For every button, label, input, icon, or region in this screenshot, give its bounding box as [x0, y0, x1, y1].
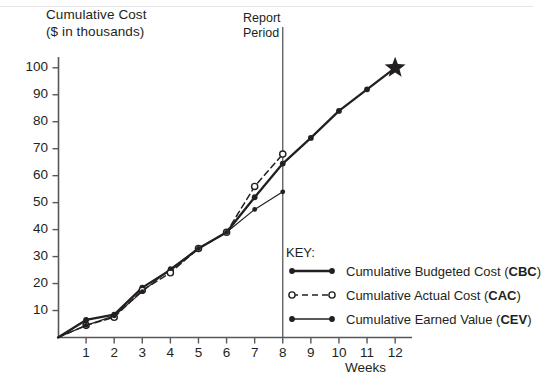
report-period-label: ReportPeriod	[243, 11, 281, 41]
legend-label-cac: Cumulative Actual Cost (CAC)	[346, 288, 521, 303]
data-point-cev	[252, 207, 257, 212]
y-tick-label: 20	[14, 275, 48, 290]
data-point-cac	[252, 183, 258, 189]
data-point-cev	[112, 314, 117, 319]
x-tick-label: 9	[300, 345, 322, 360]
legend-item-cev[interactable]: Cumulative Earned Value (CEV)	[286, 310, 531, 328]
legend-marker	[329, 292, 335, 298]
data-point-cbc	[364, 86, 370, 92]
x-tick-label: 1	[75, 345, 97, 360]
y-axis-title-line2: ($ in thousands)	[46, 24, 144, 39]
x-tick-label: 8	[272, 345, 294, 360]
x-tick-label: 11	[356, 345, 378, 360]
legend-swatch-cac	[286, 288, 338, 302]
legend-item-cbc[interactable]: Cumulative Budgeted Cost (CBC)	[286, 262, 541, 280]
x-tick-label: 7	[244, 345, 266, 360]
y-tick-label: 80	[14, 113, 48, 128]
data-point-cbc	[280, 161, 286, 167]
legend-swatch-cev	[286, 312, 338, 326]
legend-marker	[329, 316, 335, 322]
legend-marker	[289, 316, 295, 322]
data-point-cev	[196, 246, 201, 251]
series-line-cev	[58, 192, 283, 338]
legend-item-cac[interactable]: Cumulative Actual Cost (CAC)	[286, 286, 521, 304]
y-tick-label: 100	[14, 59, 48, 74]
legend-title: KEY:	[286, 245, 315, 260]
series-line-cac	[58, 154, 283, 337]
y-axis-title-line1: Cumulative Cost	[46, 7, 147, 22]
data-point-cev	[140, 289, 145, 294]
x-tick-label: 3	[131, 345, 153, 360]
x-tick-label: 4	[159, 345, 181, 360]
data-point-cev	[280, 189, 285, 194]
legend-marker	[289, 268, 295, 274]
y-tick-label: 10	[14, 302, 48, 317]
x-tick-label: 12	[384, 345, 406, 360]
y-tick-label: 50	[14, 194, 48, 209]
x-tick-label: 6	[216, 345, 238, 360]
data-point-cbc	[252, 194, 258, 200]
x-tick-label: 10	[328, 345, 350, 360]
data-point-cbc	[308, 135, 314, 141]
data-point-cev	[224, 230, 229, 235]
y-tick-label: 90	[14, 86, 48, 101]
y-axis-title: Cumulative Cost($ in thousands)	[46, 7, 147, 40]
legend-marker	[289, 292, 295, 298]
report-period-label-line2: Period	[243, 26, 279, 40]
legend-marker	[329, 268, 335, 274]
x-tick-label: 2	[103, 345, 125, 360]
data-point-cev	[84, 323, 89, 328]
x-tick-label: 5	[187, 345, 209, 360]
data-point-cev	[168, 266, 173, 271]
y-tick-label: 40	[14, 221, 48, 236]
data-point-cbc	[336, 108, 342, 114]
y-tick-label: 70	[14, 140, 48, 155]
x-axis-title: Weeks	[345, 360, 386, 375]
data-point-cac	[280, 151, 286, 157]
report-period-label-line1: Report	[243, 11, 281, 25]
legend-label-cev: Cumulative Earned Value (CEV)	[346, 312, 531, 327]
y-tick-label: 30	[14, 248, 48, 263]
y-tick-label: 60	[14, 167, 48, 182]
legend-label-cbc: Cumulative Budgeted Cost (CBC)	[346, 264, 541, 279]
legend-swatch-cbc	[286, 264, 338, 278]
